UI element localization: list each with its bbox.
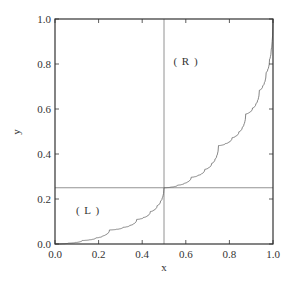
x-tick-label: 0.6 xyxy=(179,248,193,260)
region-label-right: ( R ) xyxy=(173,55,198,68)
x-tick-label: 0.8 xyxy=(223,248,237,260)
plot-area: 0.00.20.40.60.81.0 0.00.20.40.60.81.0 xyxy=(37,13,280,260)
x-tick-label: 0.4 xyxy=(135,248,149,260)
x-tick-label: 1.0 xyxy=(266,248,280,260)
y-tick-label: 1.0 xyxy=(37,13,51,25)
region-label-left: ( L ) xyxy=(76,204,100,217)
x-axis-label: x xyxy=(161,261,167,273)
y-axis-ticks: 0.00.20.40.60.81.0 xyxy=(37,13,273,250)
y-axis-label: y xyxy=(10,129,22,135)
y-tick-label: 0.6 xyxy=(37,103,51,115)
y-tick-label: 0.0 xyxy=(37,238,51,250)
y-tick-label: 0.8 xyxy=(37,58,51,70)
y-tick-label: 0.4 xyxy=(37,148,51,160)
x-tick-label: 0.2 xyxy=(92,248,106,260)
chart: 0.00.20.40.60.81.0 0.00.20.40.60.81.0 x … xyxy=(0,0,292,287)
y-tick-label: 0.2 xyxy=(37,193,51,205)
